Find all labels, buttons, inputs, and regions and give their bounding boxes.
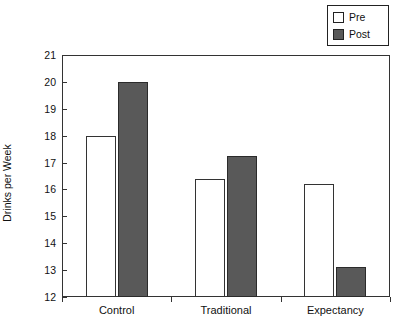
y-tick-label: 16 xyxy=(32,184,56,194)
x-tick-mark xyxy=(62,297,63,302)
legend-item-pre: Pre xyxy=(333,9,388,26)
legend-swatch-post-icon xyxy=(333,29,344,40)
y-tick-label: 17 xyxy=(32,158,56,168)
y-tick-label: 20 xyxy=(32,77,56,87)
y-axis-title: Drinks per Week xyxy=(0,62,14,304)
x-category-label-control: Control xyxy=(62,303,172,317)
x-category-label-expectancy: Expectancy xyxy=(280,303,390,317)
y-tick-label: 21 xyxy=(32,50,56,60)
chart-legend: Pre Post xyxy=(327,5,389,46)
y-tick-label: 14 xyxy=(32,238,56,248)
x-tick-mark xyxy=(171,297,172,302)
y-tick-label: 18 xyxy=(32,131,56,141)
x-tick-mark xyxy=(390,297,391,302)
y-tick-label: 12 xyxy=(32,292,56,302)
legend-label-post: Post xyxy=(349,29,370,40)
x-category-label-traditional: Traditional xyxy=(171,303,281,317)
bar-chart: Pre Post Drinks per Week 121314151617181… xyxy=(0,0,402,322)
bar-pre-expectancy xyxy=(304,184,334,297)
bar-pre-traditional xyxy=(195,179,225,297)
y-tick-label: 13 xyxy=(32,265,56,275)
y-tick-label: 19 xyxy=(32,104,56,114)
bars-layer xyxy=(62,55,390,297)
bar-post-traditional xyxy=(227,156,257,297)
x-tick-mark xyxy=(281,297,282,302)
legend-label-pre: Pre xyxy=(349,12,365,23)
bar-post-control xyxy=(118,82,148,297)
legend-item-post: Post xyxy=(333,26,388,43)
bar-post-expectancy xyxy=(336,267,366,297)
y-tick-label: 15 xyxy=(32,211,56,221)
legend-swatch-pre-icon xyxy=(333,12,344,23)
bar-pre-control xyxy=(86,136,116,297)
